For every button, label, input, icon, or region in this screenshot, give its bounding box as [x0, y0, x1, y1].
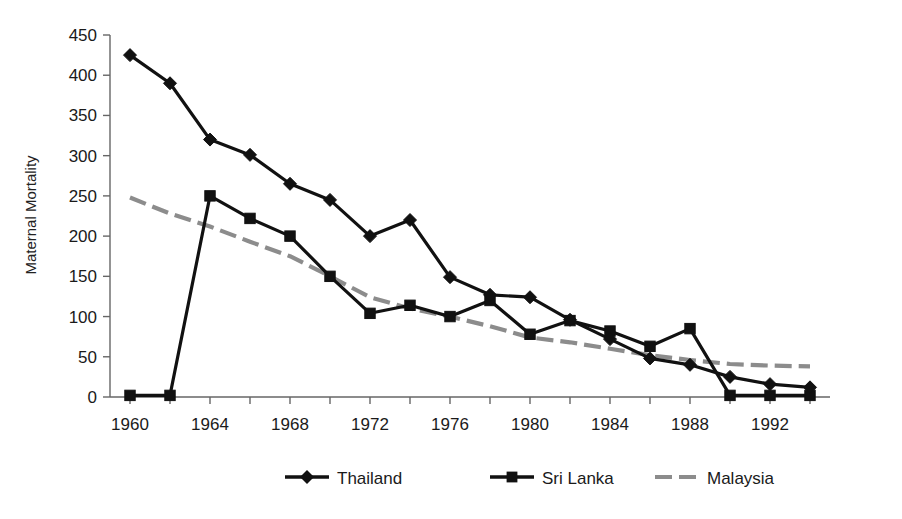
data-point-marker: [245, 213, 255, 223]
x-axis-tick-label: 1980: [511, 415, 549, 434]
maternal-mortality-line-chart: Maternal Mortality 050100150200250300350…: [0, 0, 902, 519]
data-point-marker: [405, 300, 415, 310]
x-axis-tick-label: 1960: [111, 415, 149, 434]
x-axis-tick-label: 1964: [191, 415, 229, 434]
data-point-marker: [765, 390, 775, 400]
y-axis-tick-label: 200: [69, 227, 97, 246]
legend-label: Thailand: [337, 469, 402, 488]
legend-label: Sri Lanka: [542, 469, 614, 488]
data-point-marker: [285, 231, 295, 241]
y-axis-tick-label: 400: [69, 66, 97, 85]
data-point-marker: [525, 329, 535, 339]
y-axis-title: Maternal Mortality: [22, 155, 39, 275]
y-axis-tick-label: 150: [69, 267, 97, 286]
chart-background: [0, 0, 902, 519]
data-point-marker: [325, 271, 335, 281]
x-axis-tick-label: 1984: [591, 415, 629, 434]
x-axis-tick-label: 1976: [431, 415, 469, 434]
data-point-marker: [165, 390, 175, 400]
data-point-marker: [205, 191, 215, 201]
y-axis-tick-label: 450: [69, 26, 97, 45]
x-axis-tick-label: 1992: [751, 415, 789, 434]
data-point-marker: [685, 323, 695, 333]
y-axis-tick-label: 300: [69, 147, 97, 166]
y-axis-tick-label: 100: [69, 308, 97, 327]
y-axis-tick-label: 50: [78, 348, 97, 367]
x-axis-tick-label: 1968: [271, 415, 309, 434]
y-axis-tick-label: 0: [88, 388, 97, 407]
data-point-marker: [645, 341, 655, 351]
legend-label: Malaysia: [707, 469, 775, 488]
data-point-marker: [725, 390, 735, 400]
y-axis-tick-label: 250: [69, 187, 97, 206]
data-point-marker: [125, 390, 135, 400]
x-axis-tick-label: 1988: [671, 415, 709, 434]
x-axis-tick-label: 1972: [351, 415, 389, 434]
data-point-marker: [365, 308, 375, 318]
data-point-marker: [445, 311, 455, 321]
legend-marker-square: [507, 472, 518, 483]
y-axis-tick-label: 350: [69, 106, 97, 125]
chart-canvas: Maternal Mortality 050100150200250300350…: [0, 0, 902, 519]
